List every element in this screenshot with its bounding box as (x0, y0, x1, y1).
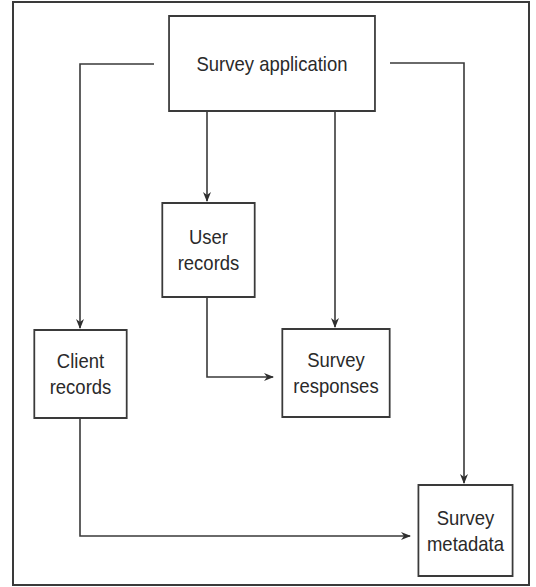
node-label: Survey metadata (427, 505, 504, 557)
node-survey-application: Survey application (168, 15, 376, 112)
diagram-canvas: Survey application User records Client r… (0, 0, 536, 587)
node-label: Survey responses (293, 347, 378, 399)
node-label: Survey application (196, 51, 347, 77)
edge-app-to-client (80, 64, 154, 328)
edge-user-to-responses (207, 298, 273, 377)
node-label: User records (178, 224, 240, 276)
node-survey-metadata: Survey metadata (418, 484, 514, 577)
edge-app-to-metadata (390, 63, 464, 483)
node-user-records: User records (161, 202, 255, 298)
node-survey-responses: Survey responses (281, 328, 390, 418)
node-label: Client records (50, 348, 112, 400)
node-client-records: Client records (33, 329, 127, 419)
edge-client-to-metadata (80, 419, 410, 536)
